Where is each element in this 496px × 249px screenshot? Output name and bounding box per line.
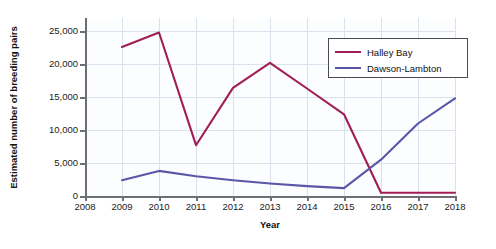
- legend-label-halley-bay: Halley Bay: [367, 47, 412, 58]
- legend-item-halley-bay: Halley Bay: [335, 44, 412, 60]
- legend: Halley Bay Dawson-Lambton: [328, 38, 468, 78]
- legend-label-dawson-lambton: Dawson-Lambton: [367, 63, 441, 74]
- legend-swatch-dawson-lambton: [335, 67, 361, 69]
- series-line-dawson-lambton: [122, 98, 455, 188]
- legend-item-dawson-lambton: Dawson-Lambton: [335, 60, 441, 76]
- line-chart: 05,00010,00015,00020,00025,000 200820092…: [0, 0, 496, 249]
- legend-swatch-halley-bay: [335, 51, 361, 53]
